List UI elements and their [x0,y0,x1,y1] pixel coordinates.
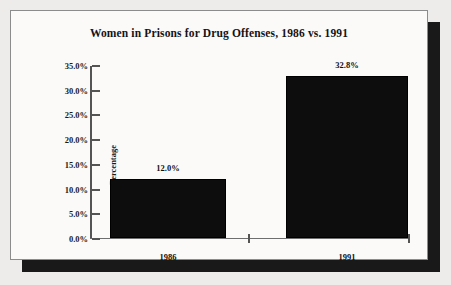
y-tick-label: 35.0% [65,60,88,72]
y-tick-mark [92,139,100,141]
y-tick-mark [92,114,100,116]
y-tick-label: 15.0% [65,159,88,171]
y-tick-mark [92,164,100,166]
chart-figure: Women in Prisons for Drug Offenses, 1986… [0,0,451,285]
y-tick-label: 0.0% [69,233,88,245]
y-tick-label: 10.0% [65,184,88,196]
x-axis-line [90,238,410,239]
y-tick-4: 20.0% [32,134,102,146]
bar-value-1991: 32.8% [286,60,408,70]
y-tick-mark [92,213,100,215]
y-tick-mark [92,189,100,191]
chart-card: Women in Prisons for Drug Offenses, 1986… [10,10,428,260]
y-tick-label: 20.0% [65,134,88,146]
y-tick-mark [92,90,100,92]
y-tick-label: 25.0% [65,109,88,121]
y-tick-0: 0.0% [32,233,102,245]
y-tick-mark [92,65,100,67]
bar-value-1986: 12.0% [110,163,226,173]
x-tick-mark-end [408,234,410,243]
y-tick-7: 35.0% [32,60,102,72]
x-category-label-1991: 1991 [286,252,408,262]
x-tick-mark-mid [248,234,250,243]
y-tick-label: 30.0% [65,85,88,97]
bar-1991 [286,76,408,238]
y-tick-1: 5.0% [32,208,102,220]
x-category-label-1986: 1986 [110,252,226,262]
plot-area: Percentage 0.0% 5.0% 10.0% 15.0% 20.0% [90,66,410,239]
y-tick-3: 15.0% [32,159,102,171]
bar-1986 [110,179,226,238]
chart-title: Women in Prisons for Drug Offenses, 1986… [11,27,427,39]
y-tick-2: 10.0% [32,184,102,196]
y-tick-mark [92,238,100,240]
y-tick-5: 25.0% [32,109,102,121]
y-tick-6: 30.0% [32,85,102,97]
y-tick-label: 5.0% [69,208,88,220]
